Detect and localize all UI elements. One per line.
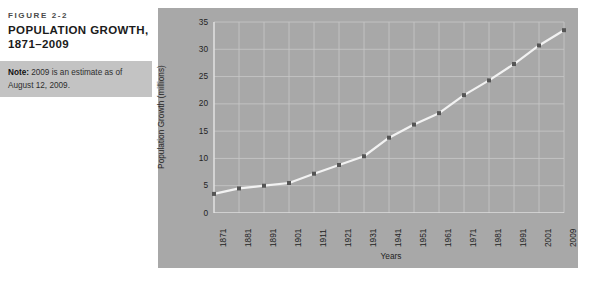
x-tick-label: 1931 bbox=[368, 229, 378, 247]
data-point-marker bbox=[237, 186, 241, 190]
x-tick-label: 1991 bbox=[518, 229, 528, 247]
data-point-marker bbox=[212, 192, 216, 196]
x-tick-label: 2001 bbox=[543, 229, 553, 247]
x-tick-label: 1921 bbox=[343, 229, 353, 247]
line-chart-svg bbox=[212, 16, 570, 213]
chart-panel: Population Growth (millions) 05101520253… bbox=[158, 8, 578, 268]
data-point-marker bbox=[487, 78, 491, 82]
data-point-marker bbox=[437, 111, 441, 115]
data-point-marker bbox=[537, 43, 541, 47]
x-tick-label: 1941 bbox=[393, 229, 403, 247]
figure-note-text: Note: 2009 is an estimate as of August 1… bbox=[8, 66, 148, 92]
figure-title: POPULATION GROWTH, 1871–2009 bbox=[8, 24, 156, 51]
x-axis-title: Years bbox=[212, 251, 570, 261]
plot-area bbox=[212, 16, 570, 213]
data-point-marker bbox=[387, 136, 391, 140]
data-point-marker bbox=[312, 172, 316, 176]
y-axis-title: Population Growth (millions) bbox=[156, 42, 170, 192]
x-tick-label: 1981 bbox=[493, 229, 503, 247]
x-tick-label: 1881 bbox=[243, 229, 253, 247]
data-point-marker bbox=[337, 163, 341, 167]
x-tick-label: 1901 bbox=[293, 229, 303, 247]
y-tick-label: 5 bbox=[174, 180, 208, 190]
y-tick-label: 30 bbox=[174, 44, 208, 54]
x-tick-label: 1911 bbox=[318, 229, 328, 247]
data-point-marker bbox=[562, 28, 566, 32]
data-point-marker bbox=[462, 93, 466, 97]
y-tick-label: 35 bbox=[174, 17, 208, 27]
figure-number-label: FIGURE 2-2 bbox=[8, 11, 68, 20]
data-point-marker bbox=[287, 181, 291, 185]
x-tick-label: 1951 bbox=[418, 229, 428, 247]
figure-note-lead: Note: bbox=[8, 68, 29, 77]
y-tick-label: 25 bbox=[174, 71, 208, 81]
data-point-marker bbox=[412, 123, 416, 127]
x-tick-label: 1961 bbox=[443, 229, 453, 247]
x-tick-label: 1891 bbox=[268, 229, 278, 247]
y-tick-label: 15 bbox=[174, 126, 208, 136]
y-tick-label: 10 bbox=[174, 153, 208, 163]
data-point-marker bbox=[362, 154, 366, 158]
x-tick-label: 2009 bbox=[568, 229, 578, 247]
x-tick-label: 1871 bbox=[218, 229, 228, 247]
x-tick-label: 1971 bbox=[468, 229, 478, 247]
data-point-marker bbox=[512, 62, 516, 66]
figure-caption-column: FIGURE 2-2 POPULATION GROWTH, 1871–2009 … bbox=[0, 0, 158, 283]
y-tick-label: 0 bbox=[174, 208, 208, 218]
figure-note-band: Note: 2009 is an estimate as of August 1… bbox=[0, 61, 152, 97]
data-point-marker bbox=[262, 184, 266, 188]
y-tick-label: 20 bbox=[174, 98, 208, 108]
